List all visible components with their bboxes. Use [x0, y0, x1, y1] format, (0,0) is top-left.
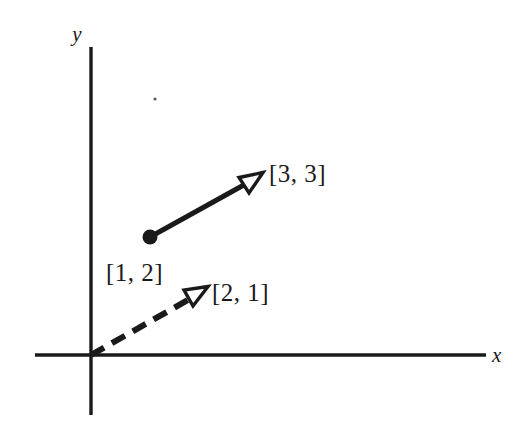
- x-axis-label: x: [491, 343, 502, 367]
- solid-vector-tail-dot: [143, 230, 158, 245]
- diagram-canvas: y x [3, 3] [1, 2] [2, 1]: [0, 0, 522, 422]
- dashed-vector-group: [91, 287, 208, 356]
- label-head-2-1: [2, 1]: [212, 279, 269, 306]
- vector-diagram-figure: y x [3, 3] [1, 2] [2, 1]: [0, 0, 522, 422]
- label-tail-1-2: [1, 2]: [106, 259, 163, 286]
- solid-vector-group: [143, 173, 264, 245]
- axes-group: [35, 47, 486, 415]
- label-head-3-3: [3, 3]: [269, 160, 326, 187]
- solid-vector-arrowhead-icon: [239, 173, 263, 194]
- solid-vector-line: [150, 181, 251, 237]
- y-axis-label: y: [70, 22, 82, 46]
- dashed-vector-line: [91, 296, 195, 355]
- scan-speck-artifact: [153, 97, 156, 100]
